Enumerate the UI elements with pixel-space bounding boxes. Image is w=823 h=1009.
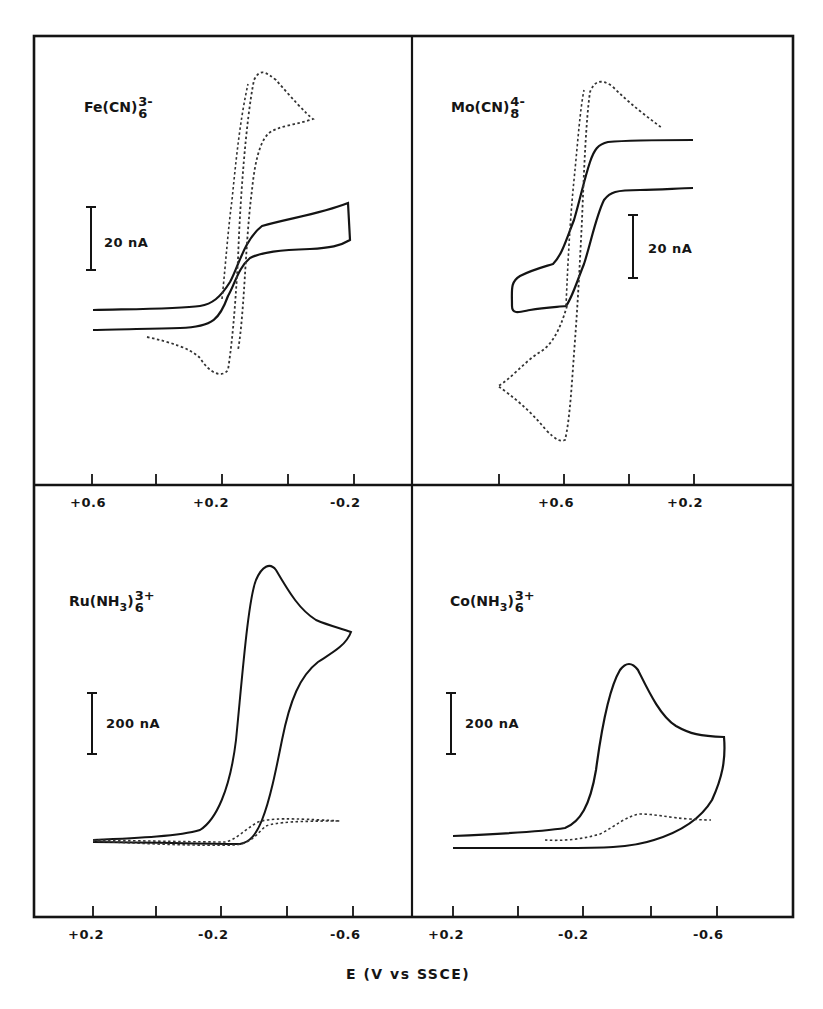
fe-count: 6 xyxy=(138,108,152,120)
mo-species-supsub: 4-8 xyxy=(510,96,524,120)
ru-species-base: Ru(NH xyxy=(69,593,120,609)
fe-species-label: Fe(CN)3-6 xyxy=(84,96,153,120)
mo-tick-label: +0.2 xyxy=(667,495,703,510)
mo-dotted-trace xyxy=(498,82,662,441)
co-solid-trace xyxy=(453,664,725,848)
co-scale-bar-label: 200 nA xyxy=(465,716,519,731)
ru-tick-label: -0.2 xyxy=(198,927,228,942)
fe-dotted-trace-2 xyxy=(222,84,248,299)
fe-tick-label: -0.2 xyxy=(330,495,360,510)
fe-tick-label: +0.2 xyxy=(193,495,229,510)
co-scale-bar xyxy=(446,693,456,754)
ru-dotted-trace xyxy=(93,819,340,845)
fe-scale-bar xyxy=(86,207,96,270)
ru-scale-bar-label: 200 nA xyxy=(106,716,160,731)
mo-tick-label: +0.6 xyxy=(538,495,574,510)
mo-species-label: Mo(CN)4-8 xyxy=(451,96,525,120)
co-axis-ticks xyxy=(453,906,717,917)
ru-scale-bar xyxy=(87,693,97,754)
co-count: 6 xyxy=(515,602,535,614)
mo-species-base: Mo(CN) xyxy=(451,99,509,115)
ru-nh3-subscript: 3 xyxy=(120,601,128,614)
fe-tick-label: +0.6 xyxy=(70,495,106,510)
fe-scale-bar-label: 20 nA xyxy=(104,235,148,250)
cyclic-voltammogram-figure: Fe(CN)3-6 Mo(CN)4-8 Ru(NH3)3+6 Co(NH3)3+… xyxy=(0,0,823,1009)
ru-tick-label: -0.6 xyxy=(330,927,360,942)
co-species-supsub: 3+6 xyxy=(515,590,535,614)
ru-species-label: Ru(NH3)3+6 xyxy=(69,590,155,614)
x-axis-title: E (V vs SSCE) xyxy=(346,966,470,982)
mo-panel-traces xyxy=(498,82,693,441)
fe-axis-ticks xyxy=(92,474,354,485)
outer-frame xyxy=(34,36,793,917)
co-dotted-trace xyxy=(545,814,711,840)
co-species-close: ) xyxy=(507,593,513,609)
mo-scale-bar-label: 20 nA xyxy=(648,241,692,256)
fe-species-base: Fe(CN) xyxy=(84,99,137,115)
mo-count: 8 xyxy=(510,108,524,120)
ru-count: 6 xyxy=(135,602,155,614)
ru-species-supsub: 3+6 xyxy=(135,590,155,614)
mo-axis-ticks xyxy=(499,474,694,485)
co-tick-label: -0.2 xyxy=(558,927,588,942)
fe-species-supsub: 3-6 xyxy=(138,96,152,120)
fe-solid-trace xyxy=(93,203,350,330)
ru-species-close: ) xyxy=(127,593,133,609)
co-species-base: Co(NH xyxy=(450,593,500,609)
co-panel-traces xyxy=(446,664,725,848)
ru-axis-ticks xyxy=(93,906,353,917)
mo-solid-trace xyxy=(512,140,693,312)
ru-tick-label: +0.2 xyxy=(68,927,104,942)
co-tick-label: -0.6 xyxy=(693,927,723,942)
mo-scale-bar xyxy=(628,215,638,278)
co-species-label: Co(NH3)3+6 xyxy=(450,590,535,614)
co-nh3-subscript: 3 xyxy=(500,601,508,614)
co-tick-label: +0.2 xyxy=(428,927,464,942)
